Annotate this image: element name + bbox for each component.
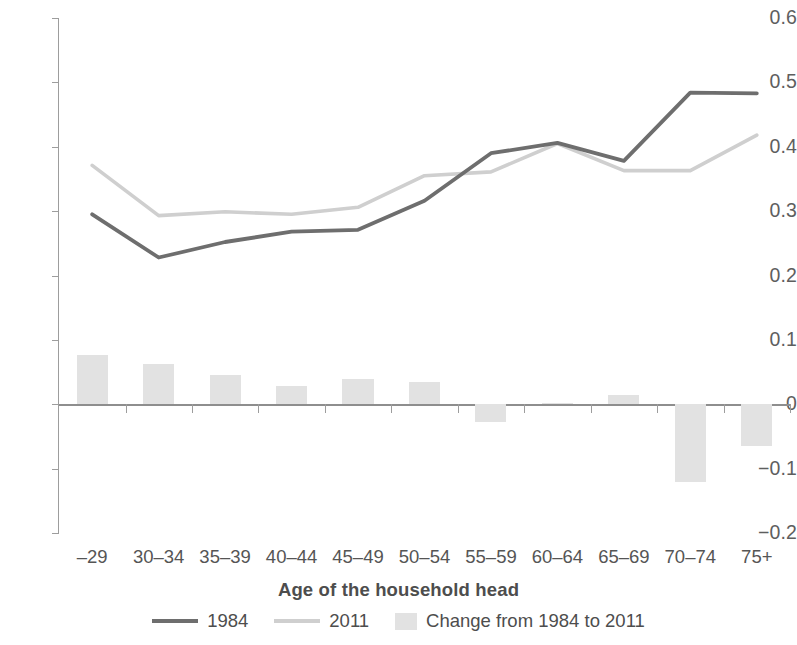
legend-label: 1984 xyxy=(207,612,248,631)
y-axis-tick-label: −0.2 xyxy=(749,523,797,543)
series-line-2011 xyxy=(92,135,757,215)
y-axis-tick xyxy=(52,469,59,470)
change-bar xyxy=(276,386,307,405)
y-axis-tick-label: −0.1 xyxy=(749,459,797,479)
y-axis-tick-label: 0.3 xyxy=(749,201,797,221)
y-axis-tick xyxy=(52,211,59,212)
x-axis-tick-label: 35–39 xyxy=(199,548,250,567)
x-axis-tick xyxy=(591,404,592,413)
y-axis-tick xyxy=(52,276,59,277)
change-bar xyxy=(409,382,440,405)
y-axis-tick-label: 0.1 xyxy=(749,330,797,350)
change-bar xyxy=(77,355,108,404)
x-axis-tick xyxy=(391,404,392,413)
legend-line-swatch-icon xyxy=(152,619,198,623)
x-axis-tick-label: 40–44 xyxy=(266,548,317,567)
x-axis-tick xyxy=(458,404,459,413)
x-axis-tick xyxy=(126,404,127,413)
change-bar xyxy=(608,395,639,404)
change-bar xyxy=(210,375,241,405)
change-bar xyxy=(741,404,772,446)
x-axis-tick xyxy=(724,404,725,413)
legend-item: 1984 xyxy=(152,612,248,631)
y-axis-tick-label: 0.5 xyxy=(749,72,797,92)
x-axis-tick-label: –29 xyxy=(77,548,108,567)
legend-label: 2011 xyxy=(329,612,369,631)
x-axis-tick-label: 65–69 xyxy=(598,548,649,567)
change-bar xyxy=(675,404,706,482)
y-axis-tick xyxy=(52,147,59,148)
x-axis-tick-label: 75+ xyxy=(741,548,772,567)
legend-item: Change from 1984 to 2011 xyxy=(395,612,645,631)
x-axis-tick xyxy=(325,404,326,413)
y-axis-tick xyxy=(52,533,59,534)
legend-box-swatch-icon xyxy=(395,613,417,630)
x-axis-tick-label: 45–49 xyxy=(332,548,383,567)
x-axis-tick-label: 60–64 xyxy=(532,548,583,567)
y-axis-tick-label: 0.6 xyxy=(749,8,797,28)
chart-legend: 19842011Change from 1984 to 2011 xyxy=(0,612,797,631)
x-axis-tick-label: 70–74 xyxy=(665,548,716,567)
x-axis-tick xyxy=(790,404,791,413)
y-axis-tick xyxy=(52,18,59,19)
x-axis-tick xyxy=(192,404,193,413)
chart-figure: 0.60.50.40.30.20.10−0.1−0.2 –2930–3435–3… xyxy=(0,0,797,645)
x-axis-tick xyxy=(657,404,658,413)
y-axis-tick xyxy=(52,404,59,405)
x-axis-tick-label: 30–34 xyxy=(133,548,184,567)
change-bar xyxy=(143,364,174,405)
y-axis-tick xyxy=(52,82,59,83)
legend-item: 2011 xyxy=(274,612,369,631)
x-axis-tick xyxy=(258,404,259,413)
y-axis-tick-label: 0.2 xyxy=(749,266,797,286)
change-bar xyxy=(475,404,506,422)
change-bar xyxy=(542,403,573,404)
y-axis-tick xyxy=(52,340,59,341)
legend-label: Change from 1984 to 2011 xyxy=(426,612,645,631)
x-axis-tick xyxy=(524,404,525,413)
change-bar xyxy=(342,379,373,404)
x-axis-tick-label: 50–54 xyxy=(399,548,450,567)
series-line-1984 xyxy=(92,93,757,258)
x-axis-title: Age of the household head xyxy=(0,579,797,601)
y-axis-tick-label: 0.4 xyxy=(749,137,797,157)
legend-line-swatch-icon xyxy=(274,619,320,623)
x-axis-tick-label: 55–59 xyxy=(465,548,516,567)
